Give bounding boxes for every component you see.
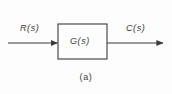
block-diagram-figure: R(s) G(s) C(s) (a) [0, 0, 172, 94]
figure-caption: (a) [0, 73, 172, 82]
transfer-function-label: G(s) [70, 37, 90, 46]
input-signal-label: R(s) [20, 24, 39, 33]
output-signal-label: C(s) [126, 24, 145, 33]
